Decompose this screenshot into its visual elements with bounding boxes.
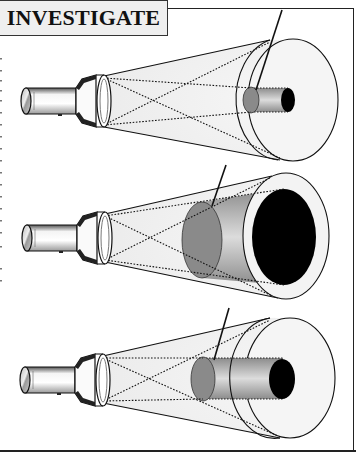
flashlight-diagram	[0, 0, 362, 459]
cropped-text-marks	[0, 58, 2, 282]
panel-3	[20, 308, 335, 438]
title-box: INVESTIGATE	[0, 0, 168, 36]
page-title: INVESTIGATE	[7, 5, 160, 31]
panel-2	[22, 165, 329, 299]
